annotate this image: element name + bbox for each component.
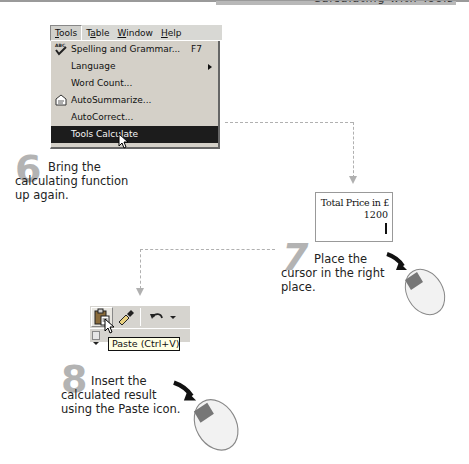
mouse-pointer-icon — [118, 133, 130, 149]
tools-dropdown: ABC Spelling and Grammar... F7 Language … — [50, 41, 220, 149]
connector-arrow-icon — [136, 288, 144, 296]
menu-item-autosummarize[interactable]: AutoSummarize... — [51, 92, 218, 109]
paste-tooltip: Paste (Ctrl+V) — [108, 337, 180, 351]
undo-button[interactable] — [146, 307, 182, 327]
menubar-window[interactable]: Window — [113, 25, 157, 41]
connector-line — [225, 122, 353, 123]
shortcut-f7: F7 — [191, 41, 202, 58]
dropdown-arrow-button[interactable] — [92, 331, 100, 340]
menubar-table[interactable]: Table — [82, 25, 113, 41]
page-header-title: Calculating with Tools — [313, 1, 454, 5]
step-8-text: Insert the calculated result using the P… — [61, 374, 180, 416]
tools-menu-screenshot: Tools Table Window Help ABC Spelling and… — [50, 25, 222, 149]
menu-item-spelling[interactable]: ABC Spelling and Grammar... F7 — [51, 41, 218, 58]
undo-icon — [147, 308, 181, 326]
connector-line — [140, 249, 275, 250]
connector-arrow-icon — [349, 176, 357, 184]
cell-value: 1200 — [364, 209, 388, 220]
chevron-down-icon — [93, 340, 99, 347]
menu-item-word-count[interactable]: Word Count... — [51, 75, 218, 92]
page-header-band: Calculating with Tools — [216, 1, 456, 5]
svg-text:ABC: ABC — [55, 43, 66, 48]
connector-line — [140, 249, 141, 289]
menu-item-language[interactable]: Language — [51, 58, 218, 75]
cell-label: Total Price in £ — [321, 197, 389, 208]
menubar: Tools Table Window Help — [50, 25, 222, 41]
menubar-tools[interactable]: Tools — [50, 25, 82, 41]
submenu-arrow-icon — [208, 64, 212, 70]
toolbar-separator — [140, 308, 141, 326]
autosummarize-icon — [54, 93, 68, 107]
connector-line — [353, 122, 354, 178]
step-6-text: Bring the calculating function up again. — [15, 160, 128, 202]
mouse-click-icon — [165, 376, 245, 456]
spreadsheet-cell[interactable]: Total Price in £ 1200 — [315, 192, 393, 242]
mouse-click-icon — [379, 248, 451, 320]
menubar-help[interactable]: Help — [157, 25, 186, 41]
spelling-check-icon: ABC — [54, 42, 68, 56]
format-painter-icon — [116, 308, 136, 326]
format-painter-button[interactable] — [115, 307, 137, 327]
mouse-pointer-icon — [104, 318, 116, 334]
menu-item-tools-calculate[interactable]: Tools Calculate — [51, 126, 218, 143]
step-7-text: Place the cursor in the right place. — [281, 252, 384, 294]
text-cursor-icon — [385, 223, 387, 234]
menu-item-autocorrect[interactable]: AutoCorrect... — [51, 109, 218, 126]
